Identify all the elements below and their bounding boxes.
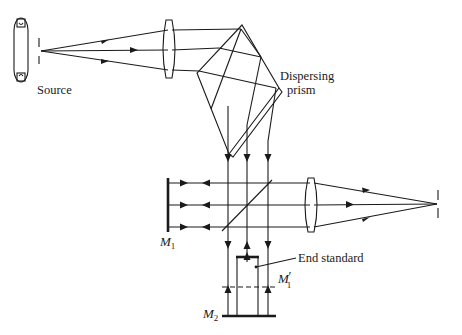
m1-label: M1 [159, 234, 175, 251]
m1-prime-label: M′1 [277, 268, 291, 290]
dispersing-prism [197, 25, 282, 157]
horizontal-rays [168, 180, 310, 231]
source-label: Source [37, 83, 72, 97]
collimating-lens [163, 20, 175, 78]
input-rays [41, 30, 168, 70]
m2-label: M2 [202, 306, 218, 323]
prism-label-2: prism [287, 83, 316, 97]
end-standard-label: End standard [298, 251, 364, 265]
prism-label-1: Dispersing [280, 69, 335, 83]
output-rays [314, 183, 437, 227]
source-lamp [14, 18, 28, 82]
optical-diagram: Source Dispersing prism [0, 0, 462, 335]
